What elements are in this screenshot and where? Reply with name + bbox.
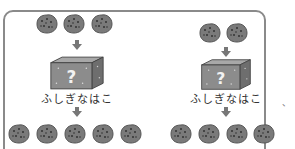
box-label: ふしぎなはこ (37, 90, 117, 106)
cookie-icon (170, 124, 192, 144)
cookie-icon (198, 124, 220, 144)
cookie-icon (120, 124, 142, 144)
arrow-down-icon (221, 47, 231, 57)
arrow-down-icon (221, 107, 231, 117)
cookie-icon (253, 124, 275, 144)
box-label: ふしぎなはこ (186, 90, 266, 106)
cookie-icon (8, 124, 30, 144)
cookie-icon (63, 14, 85, 34)
side-mark: 、 (282, 96, 291, 109)
mystery-box-icon (198, 58, 254, 91)
cookie-icon (36, 124, 58, 144)
arrow-down-icon (72, 40, 82, 50)
cookie-icon (199, 23, 221, 43)
cookie-icon (64, 124, 86, 144)
cookie-icon (91, 14, 113, 34)
cookie-icon (92, 124, 114, 144)
cookie-icon (226, 124, 248, 144)
mystery-box-icon (49, 55, 105, 91)
cookie-icon (36, 14, 58, 34)
cookie-icon (226, 23, 248, 43)
arrow-down-icon (72, 107, 82, 117)
